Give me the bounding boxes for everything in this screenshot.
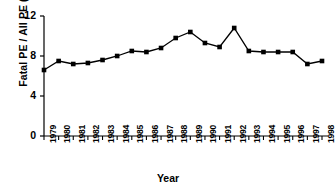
data-point-marker <box>276 50 281 55</box>
x-axis-tick-label: 1979 <box>48 125 58 143</box>
chart-container: Fatal PE / All PE (%) Year 04812 1979198… <box>0 0 336 191</box>
data-point-marker <box>290 50 295 55</box>
x-axis-tick-label: 1988 <box>179 125 189 143</box>
data-point-marker <box>86 61 91 66</box>
data-point-marker <box>217 45 222 50</box>
data-point-marker <box>42 68 47 73</box>
data-point-marker <box>100 58 105 63</box>
data-point-markers <box>42 26 325 73</box>
x-axis-tick-label: 1993 <box>252 125 262 143</box>
x-axis-tick-label: 1992 <box>238 125 248 143</box>
x-axis-tick-label: 1990 <box>208 125 218 143</box>
x-axis-tick-label: 1998 <box>326 125 336 143</box>
chart-plot-area <box>0 0 336 191</box>
data-point-marker <box>56 59 61 64</box>
x-axis-tick-label: 1997 <box>311 125 321 143</box>
data-point-marker <box>144 50 149 55</box>
data-point-marker <box>188 30 193 35</box>
data-point-marker <box>247 49 252 54</box>
x-axis-tick-label: 1995 <box>282 125 292 143</box>
x-axis-tick-label: 1987 <box>165 125 175 143</box>
x-axis-tick-label: 1986 <box>150 125 160 143</box>
y-axis-tick-label: 0 <box>10 129 36 141</box>
x-axis-tick-label: 1983 <box>106 125 116 143</box>
data-point-marker <box>203 41 208 46</box>
x-axis-tick-label: 1989 <box>194 125 204 143</box>
x-axis-tick-label: 1994 <box>267 125 277 143</box>
x-axis-tick-label: 1980 <box>62 125 72 143</box>
data-point-marker <box>261 50 266 55</box>
y-axis-tick-label: 4 <box>10 89 36 101</box>
data-point-marker <box>129 49 134 54</box>
data-point-marker <box>115 54 120 59</box>
x-axis-tick-label: 1985 <box>135 125 145 143</box>
data-point-marker <box>232 26 237 31</box>
data-point-marker <box>320 59 325 64</box>
data-point-marker <box>305 62 310 67</box>
x-axis-tick-label: 1984 <box>121 125 131 143</box>
data-point-marker <box>173 36 178 41</box>
y-axis-tick-label: 8 <box>10 49 36 61</box>
data-point-marker <box>159 46 164 51</box>
data-point-marker <box>71 62 76 67</box>
y-axis-tick-label: 12 <box>10 9 36 21</box>
x-axis-tick-label: 1982 <box>91 125 101 143</box>
x-axis-tick-label: 1991 <box>223 125 233 143</box>
x-axis-tick-label: 1996 <box>296 125 306 143</box>
x-axis-tick-label: 1981 <box>77 125 87 143</box>
